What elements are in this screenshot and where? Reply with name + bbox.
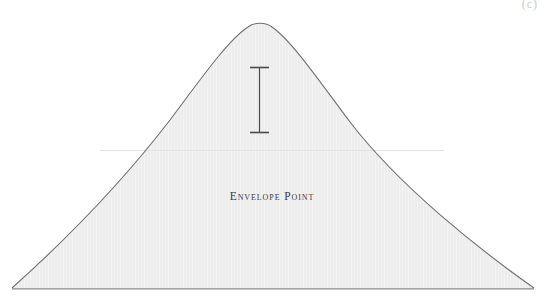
envelope-area-fill [12,23,534,289]
figure-corner-fragment: (c) [522,0,538,12]
envelope-diagram-svg [0,0,544,299]
envelope-figure: Envelope Point (c) [0,0,544,299]
